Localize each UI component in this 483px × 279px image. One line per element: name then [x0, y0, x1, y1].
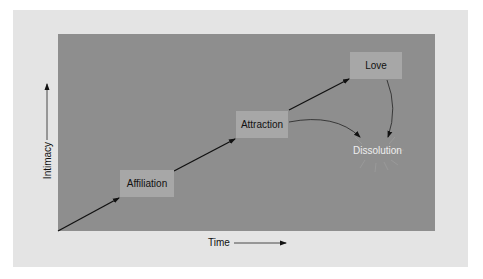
x-axis-label: Time	[208, 237, 230, 248]
arrow-origin-to-affiliation	[58, 198, 119, 231]
node-attraction: Attraction	[236, 111, 288, 138]
node-love: Love	[350, 52, 402, 79]
arrow-attraction-to-love	[289, 79, 349, 110]
arrow-affiliation-to-attraction	[174, 139, 235, 171]
node-love-label: Love	[365, 60, 387, 71]
arrow-love-to-dissolution	[387, 80, 393, 137]
node-dissolution-label: Dissolution	[353, 145, 402, 156]
node-attraction-label: Attraction	[241, 119, 283, 130]
arrow-attraction-to-dissolution	[289, 120, 360, 137]
arrows-layer	[0, 0, 483, 279]
node-affiliation: Affiliation	[120, 170, 174, 197]
y-axis-label: Intimacy	[42, 136, 53, 186]
node-affiliation-label: Affiliation	[127, 178, 167, 189]
